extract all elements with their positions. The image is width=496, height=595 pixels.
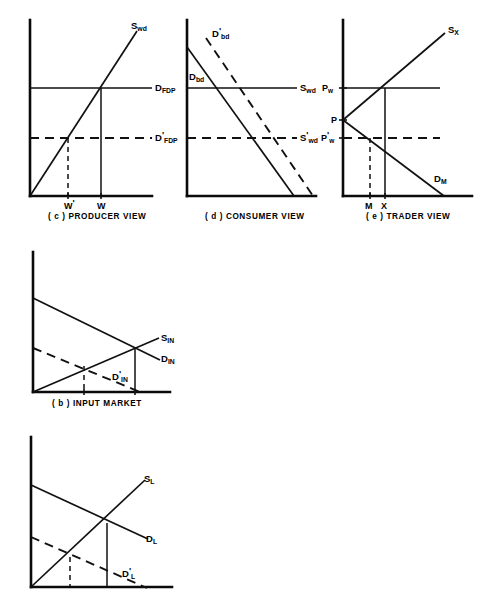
label-tick-w: W: [97, 201, 106, 211]
curve-demand-bd-prime: [206, 38, 313, 196]
caption-trader-view: ( e ) TRADER VIEW: [366, 212, 450, 221]
curve-supply-wd: [30, 31, 137, 196]
curve-demand-l-prime: [31, 537, 147, 588]
curve-label-supply-wd: Swd: [300, 82, 316, 94]
curve-label-demand-bd-prime: D'bd: [212, 26, 229, 40]
panel-consumer-view: DbdD'bdSwdS'wd( d ) CONSUMER VIEW: [187, 20, 318, 221]
curve-label-demand-fdp-prime: D'FDP: [155, 130, 178, 144]
caption-producer-view: ( c ) PRODUCER VIEW: [48, 212, 146, 221]
label-tick-pw: Pw: [322, 83, 334, 94]
label-tick-p: P: [331, 115, 337, 125]
curve-demand-in: [33, 298, 160, 360]
curve-label-supply-l: SL: [144, 473, 155, 485]
curve-label-demand-l: DL: [146, 533, 157, 545]
economics-figure: SwdDFDPD'FDPW'W( c ) PRODUCER VIEWDbdD'b…: [0, 0, 496, 595]
curve-label-demand-fdp: DFDP: [155, 82, 176, 94]
figure-root: SwdDFDPD'FDPW'W( c ) PRODUCER VIEWDbdD'b…: [0, 0, 496, 595]
label-tick-pw-prime: P'w: [321, 130, 335, 144]
curve-demand-m: [343, 120, 444, 196]
curve-label-demand-in: DIN: [161, 353, 175, 365]
label-tick-m: M: [365, 201, 373, 211]
curve-label-supply-x: SX: [448, 24, 459, 36]
curve-label-demand-in-prime: D'IN: [112, 369, 128, 383]
curve-label-supply-wd: Swd: [131, 20, 147, 32]
curve-label-supply-in: SIN: [161, 332, 174, 344]
label-tick-w-prime: W': [64, 198, 75, 211]
curve-supply-x: [343, 33, 445, 120]
panel-input-market: SINDIND'IN( b ) INPUT MARKET: [33, 252, 175, 408]
curve-label-demand-l-prime: D'L: [122, 566, 135, 580]
curve-label-supply-wd-prime: S'wd: [300, 130, 318, 144]
panel-labor-market: SLDLD'L: [31, 437, 172, 588]
panel-trader-view: SXDMMXPwPP'w( e ) TRADER VIEW: [321, 20, 472, 221]
curve-demand-bd: [187, 47, 294, 196]
panel-producer-view: SwdDFDPD'FDPW'W( c ) PRODUCER VIEW: [30, 20, 178, 221]
caption-consumer-view: ( d ) CONSUMER VIEW: [205, 212, 305, 221]
label-tick-x: X: [381, 201, 387, 211]
curve-label-demand-bd: Dbd: [189, 71, 204, 83]
curve-label-demand-m: DM: [434, 173, 447, 185]
curve-supply-in: [33, 338, 159, 392]
caption-input-market: ( b ) INPUT MARKET: [52, 399, 142, 408]
